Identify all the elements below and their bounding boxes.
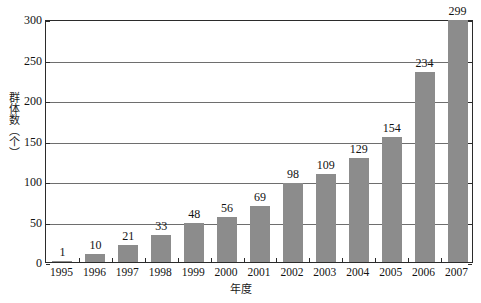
x-axis-tick-label: 1997 [116, 266, 139, 279]
bar[interactable] [250, 206, 270, 262]
bar[interactable] [382, 137, 402, 262]
y-axis-tick-label: 150 [14, 136, 42, 148]
bar-group[interactable]: 48 [178, 21, 211, 262]
bar[interactable] [448, 20, 468, 262]
bars-layer: 110213348566998109129154234299 [46, 21, 472, 262]
y-axis-tick-label: 0 [14, 257, 42, 269]
y-axis-tick-labels: 050100150200250300 [8, 0, 42, 303]
x-axis-tick-label: 2004 [346, 266, 369, 279]
bar[interactable] [184, 223, 204, 262]
bar-chart: 群体数（个） 050100150200250300 11021334856699… [0, 0, 481, 303]
bar-value-label: 299 [449, 5, 467, 17]
bar-value-label: 10 [89, 239, 101, 251]
bar[interactable] [85, 254, 105, 262]
bar-group[interactable]: 33 [145, 21, 178, 262]
bar-value-label: 21 [122, 230, 134, 242]
y-axis-tick-label: 50 [14, 217, 42, 229]
x-axis-tick-label: 2003 [313, 266, 336, 279]
bar-value-label: 109 [317, 159, 335, 171]
bar-value-label: 154 [383, 122, 401, 134]
y-axis-tick [468, 264, 472, 265]
bar[interactable] [217, 217, 237, 262]
bar-group[interactable]: 98 [276, 21, 309, 262]
y-axis-tick-label: 300 [14, 14, 42, 26]
bar-value-label: 48 [188, 208, 200, 220]
bar-value-label: 129 [350, 143, 368, 155]
bar-group[interactable]: 21 [112, 21, 145, 262]
bar-group[interactable]: 234 [408, 21, 441, 262]
y-axis-tick-label: 100 [14, 176, 42, 188]
bar[interactable] [118, 245, 138, 262]
bar[interactable] [283, 183, 303, 262]
bar-value-label: 56 [221, 202, 233, 214]
bar[interactable] [52, 261, 72, 263]
bar[interactable] [151, 235, 171, 262]
bar-group[interactable]: 1 [46, 21, 79, 262]
bar[interactable] [349, 158, 369, 262]
bar-group[interactable]: 129 [342, 21, 375, 262]
bar-value-label: 1 [59, 246, 65, 258]
y-axis-tick [46, 264, 50, 265]
x-axis-tick-label: 1999 [182, 266, 205, 279]
x-axis-tick-label: 2002 [280, 266, 303, 279]
bar-group[interactable]: 154 [375, 21, 408, 262]
x-axis-tick-label: 2000 [215, 266, 238, 279]
x-axis-tick-label: 1998 [149, 266, 172, 279]
bar-group[interactable]: 109 [309, 21, 342, 262]
bar[interactable] [316, 174, 336, 262]
x-axis-tick-label: 1996 [83, 266, 106, 279]
bar-group[interactable]: 69 [244, 21, 277, 262]
bar-value-label: 98 [287, 168, 299, 180]
bar-group[interactable]: 10 [79, 21, 112, 262]
x-axis-tick-label: 1995 [50, 266, 73, 279]
x-axis-tick-labels: 1995199619971998199920002001200220032004… [45, 266, 473, 282]
x-axis-tick-label: 2001 [248, 266, 271, 279]
bar-value-label: 69 [254, 191, 266, 203]
plot-area: 110213348566998109129154234299 [45, 20, 473, 263]
x-axis-tick-label: 2006 [412, 266, 435, 279]
x-axis-title: 年度 [0, 283, 481, 296]
x-axis-tick-label: 2005 [379, 266, 402, 279]
y-axis-tick-label: 250 [14, 55, 42, 67]
bar-value-label: 33 [155, 220, 167, 232]
bar-value-label: 234 [416, 57, 434, 69]
bar[interactable] [415, 72, 435, 262]
bar-group[interactable]: 299 [441, 21, 474, 262]
x-axis-tick-label: 2007 [445, 266, 468, 279]
y-axis-tick-label: 200 [14, 95, 42, 107]
bar-group[interactable]: 56 [211, 21, 244, 262]
